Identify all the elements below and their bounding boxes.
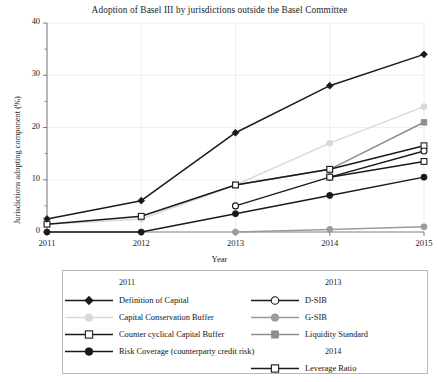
data-point-filled-circle	[421, 224, 427, 230]
legend-item-counter-cyclical-capital-buffer[interactable]: Counter cyclical Capital Buffer	[63, 326, 224, 343]
legend-item-label: Definition of Capital	[115, 296, 189, 305]
legend-column-2011: 2011Definition of CapitalCapital Conserv…	[63, 271, 249, 373]
data-point-filled-circle	[85, 314, 93, 322]
data-point-open-circle	[271, 297, 279, 305]
legend-sample-filled-circle	[63, 309, 115, 326]
legend-item-leverage-ratio[interactable]: Leverage Ratio	[249, 360, 356, 377]
legend-sample-filled-square	[249, 326, 301, 343]
legend-item-risk-coverage-counterparty-credit-risk[interactable]: Risk Coverage (counterparty credit risk)	[63, 343, 254, 360]
data-point-open-square	[138, 213, 144, 219]
data-point-open-square	[271, 365, 278, 372]
legend-swatch	[63, 326, 115, 343]
x-tick-label: 2013	[216, 238, 256, 248]
legend-swatch	[63, 309, 115, 326]
chart-figure: Adoption of Basel III by jurisdictions o…	[0, 0, 439, 382]
legend-swatch	[63, 343, 115, 360]
y-tick-label: 40	[16, 17, 40, 26]
data-point-filled-circle	[232, 211, 238, 217]
data-point-filled-circle	[421, 104, 427, 110]
legend-item-label: Leverage Ratio	[301, 364, 356, 373]
legend-item-d-sib[interactable]: D-SIB	[249, 292, 327, 309]
legend-swatch	[249, 309, 301, 326]
legend-swatch	[63, 292, 115, 309]
legend-group-header-2013: 2013	[325, 274, 341, 291]
legend-item-label: D-SIB	[301, 296, 327, 305]
x-axis-label: Year	[0, 254, 439, 264]
legend-sample-open-square	[63, 326, 115, 343]
grid-layer	[47, 23, 424, 232]
data-point-filled-circle	[85, 348, 93, 356]
legend-item-label: Risk Coverage (counterparty credit risk)	[115, 347, 254, 356]
legend-item-label: Capital Conservation Buffer	[115, 313, 214, 322]
data-point-open-square	[327, 166, 333, 172]
data-point-filled-diamond	[326, 82, 333, 89]
legend-group-header-2011: 2011	[119, 274, 135, 291]
y-tick-label: 30	[16, 69, 40, 78]
legend-sample-open-circle	[249, 292, 301, 309]
legend-item-capital-conservation-buffer[interactable]: Capital Conservation Buffer	[63, 309, 214, 326]
legend-item-label: G-SIB	[301, 313, 327, 322]
data-point-open-square	[85, 331, 92, 338]
legend-item-label: Liquidity Standard	[301, 330, 368, 339]
series-leverage-ratio	[327, 159, 427, 180]
data-point-open-circle	[233, 203, 239, 209]
y-axis-label: Jurisdictions adopting component (%)	[13, 96, 22, 224]
legend-sample-open-square	[249, 360, 301, 377]
data-point-filled-diamond	[85, 296, 94, 305]
legend-swatch	[249, 326, 301, 343]
data-point-open-square	[327, 174, 333, 180]
data-point-filled-circle	[421, 174, 427, 180]
chart-legend: 2011Definition of CapitalCapital Conserv…	[62, 270, 428, 374]
data-point-open-circle	[421, 148, 427, 154]
legend-sample-filled-diamond	[63, 292, 115, 309]
data-point-open-square	[233, 182, 239, 188]
data-point-open-square	[421, 159, 427, 165]
legend-group-header-2014: 2014	[325, 343, 341, 360]
legend-swatch	[249, 360, 301, 377]
data-point-filled-square	[421, 119, 427, 125]
x-tick-label: 2015	[404, 238, 439, 248]
legend-column-2013-2014: 2013D-SIBG-SIBLiquidity Standard2014Leve…	[249, 271, 429, 373]
legend-swatch	[249, 292, 301, 309]
data-point-filled-circle	[271, 314, 279, 322]
x-tick-label: 2011	[27, 238, 67, 248]
legend-item-label: Counter cyclical Capital Buffer	[115, 330, 224, 339]
data-point-filled-circle	[232, 229, 238, 235]
data-point-filled-circle	[44, 229, 50, 235]
legend-sample-filled-circle	[63, 343, 115, 360]
x-tick-label: 2014	[310, 238, 350, 248]
data-point-filled-circle	[327, 140, 333, 146]
legend-item-liquidity-standard[interactable]: Liquidity Standard	[249, 326, 368, 343]
data-point-filled-circle	[327, 192, 333, 198]
legend-sample-filled-circle	[249, 309, 301, 326]
x-tick-label: 2012	[121, 238, 161, 248]
data-point-filled-square	[271, 331, 278, 338]
data-point-filled-circle	[138, 229, 144, 235]
y-tick-label: 0	[16, 226, 40, 235]
legend-item-g-sib[interactable]: G-SIB	[249, 309, 327, 326]
data-point-filled-diamond	[421, 51, 428, 58]
data-point-filled-circle	[327, 226, 333, 232]
legend-item-definition-of-capital[interactable]: Definition of Capital	[63, 292, 189, 309]
